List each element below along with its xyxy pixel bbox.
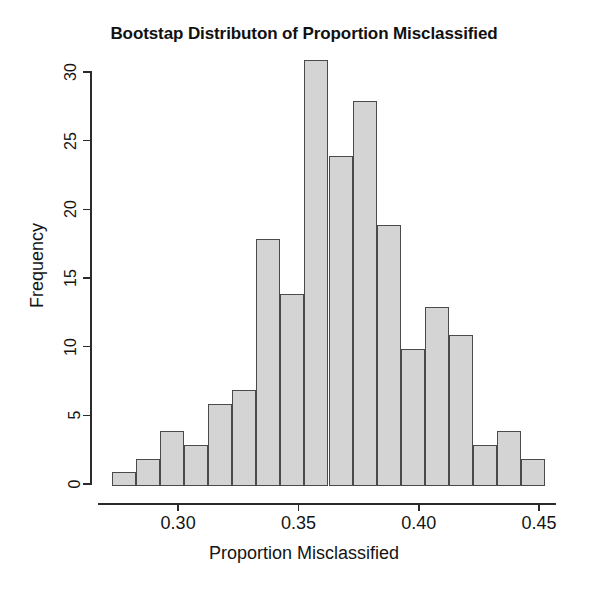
histogram-bar: [425, 307, 449, 486]
y-axis-tick: [83, 140, 90, 142]
x-axis-tick: [538, 503, 540, 511]
x-axis-title: Proportion Misclassified: [0, 543, 608, 564]
x-axis-tick-label: 0.30: [143, 513, 213, 534]
y-axis-line: [90, 71, 92, 485]
y-axis-tick: [83, 346, 90, 348]
histogram-bar: [256, 239, 280, 486]
y-axis-tick-label: 30: [46, 63, 80, 81]
histogram-bar: [208, 404, 232, 486]
y-axis-title: Frequency: [27, 166, 48, 366]
y-axis-tick-label: 20: [46, 200, 80, 218]
y-axis-tick: [83, 277, 90, 279]
histogram-bar: [232, 390, 256, 486]
x-axis-tick-label: 0.40: [384, 513, 454, 534]
x-axis-tick-label: 0.45: [504, 513, 574, 534]
histogram-bar: [377, 225, 401, 486]
y-axis-tick: [83, 71, 90, 73]
histogram-bar: [473, 445, 497, 486]
chart-title: Bootstap Distributon of Proportion Miscl…: [0, 24, 608, 44]
histogram-bars: [96, 60, 556, 486]
histogram-bar: [112, 472, 136, 486]
x-axis-tick: [418, 503, 420, 511]
histogram-figure: Bootstap Distributon of Proportion Miscl…: [0, 0, 608, 593]
histogram-bar: [497, 431, 521, 486]
x-axis-tick: [298, 503, 300, 511]
histogram-bar: [280, 294, 304, 486]
histogram-bar: [401, 349, 425, 486]
histogram-bar: [521, 459, 545, 486]
y-axis-tick-label: 25: [46, 132, 80, 150]
histogram-bar: [449, 335, 473, 486]
histogram-bar: [160, 431, 184, 486]
histogram-bar: [329, 156, 353, 486]
x-axis-line: [98, 503, 556, 505]
histogram-bar: [304, 60, 328, 486]
y-axis-tick-label: 10: [46, 338, 80, 356]
y-axis-tick: [83, 209, 90, 211]
x-axis-tick: [177, 503, 179, 511]
histogram-bar: [136, 459, 160, 486]
plot-area: [96, 58, 556, 486]
histogram-bar: [184, 445, 208, 486]
y-axis-tick-label: 0: [46, 475, 80, 493]
y-axis-tick-label: 15: [46, 269, 80, 287]
y-axis-tick-label: 5: [46, 406, 80, 424]
histogram-bar: [353, 101, 377, 486]
x-axis-tick-label: 0.35: [263, 513, 333, 534]
